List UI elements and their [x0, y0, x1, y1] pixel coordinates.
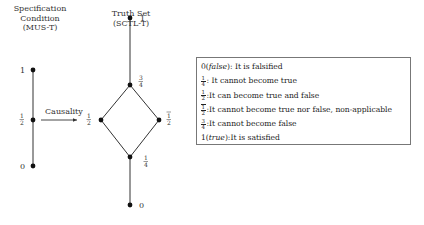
legend-row-half-overline: 12:It cannot become true nor false, non-…	[201, 103, 406, 117]
legend-fraction: 34	[201, 119, 206, 130]
chain-label-half-den: 2	[20, 119, 24, 126]
lattice-node-one-quarter	[128, 155, 133, 160]
lattice-edge	[101, 120, 130, 157]
lattice-label-lh-num: 1	[87, 112, 91, 119]
lattice-label-3q-den: 4	[139, 81, 143, 88]
legend-row-quarter: 14: It cannot become true	[201, 74, 406, 88]
chain-label-0: 0	[20, 162, 25, 171]
legend-italic: false	[209, 60, 227, 74]
lattice-label-0: 0	[139, 201, 144, 210]
lattice-label-rh-den: 2	[167, 119, 171, 126]
legend-fraction-overline: 12	[201, 104, 206, 116]
lattice-label-1: 1	[140, 14, 145, 23]
legend-text: :It cannot become false	[207, 117, 297, 131]
legend-text: ):It is satisfied	[225, 131, 280, 145]
frac-den: 4	[202, 82, 206, 87]
legend-prefix: 0(	[201, 60, 209, 74]
lattice-node-0	[128, 203, 133, 208]
chain-label-half-num: 1	[20, 112, 24, 119]
chain-label-1: 1	[20, 66, 25, 75]
legend-fraction: 12	[201, 90, 206, 101]
lattice-edge	[101, 85, 130, 120]
chain-node-1	[31, 68, 36, 73]
legend-box: 0(false): It is falsified 14: It cannot …	[196, 57, 411, 145]
causality-label: Causality	[45, 107, 83, 116]
legend-row-half: 12:It can become true and false	[201, 89, 406, 103]
lattice-label-1q-num: 1	[144, 154, 148, 161]
legend-fraction: 14	[201, 76, 206, 87]
legend-row-true: 1(true):It is satisfied	[201, 131, 406, 145]
lattice-label-lh-den: 2	[87, 119, 91, 126]
frac-den: 4	[202, 125, 206, 130]
lattice-label-rh-num: 1	[167, 112, 171, 119]
chain-node-half	[31, 118, 36, 123]
legend-prefix: 1(	[201, 131, 209, 145]
lattice-node-right-half	[157, 118, 162, 123]
lattice-edge	[130, 85, 159, 120]
legend-row-three-quarters: 34:It cannot become false	[201, 117, 406, 131]
legend-text: :It can become true and false	[207, 89, 320, 103]
lattice-label-3q-num: 3	[139, 74, 143, 81]
lattice-node-1	[128, 16, 133, 21]
legend-italic: true	[209, 131, 225, 145]
chain-node-0	[31, 164, 36, 169]
frac-den: 2	[202, 96, 206, 101]
legend-text: :It cannot become true nor false, non-ap…	[207, 103, 392, 117]
frac-den: 2	[202, 111, 206, 116]
lattice-edge	[130, 120, 159, 157]
lattice-node-three-quarters	[128, 83, 133, 88]
lattice-node-left-half	[99, 118, 104, 123]
lattice-label-1q-den: 4	[144, 161, 148, 168]
legend-row-false: 0(false): It is falsified	[201, 60, 406, 74]
legend-text: ): It is falsified	[227, 60, 283, 74]
legend-text: : It cannot become true	[207, 74, 297, 88]
